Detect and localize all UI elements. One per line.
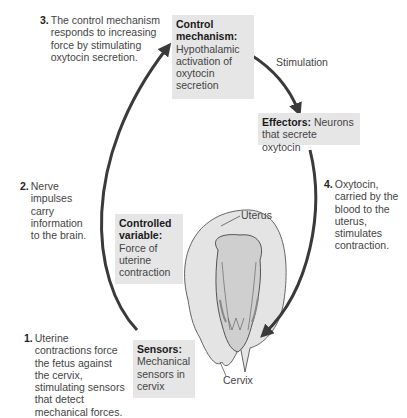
step-3: 3. The control mechanism responds to inc… [40, 14, 168, 63]
step-text: Oxytocin, carried by the blood to the ut… [335, 178, 402, 252]
uterus-illustration [185, 210, 287, 376]
step-text: Uterine contractions force the fetus aga… [35, 332, 128, 418]
effectors-box: Effectors: Neurons that secrete oxytocin [258, 113, 360, 145]
step-4: 4. Oxytocin, carried by the blood to the… [324, 178, 402, 252]
cervix-label: Cervix [223, 374, 253, 386]
box-body: Hypothalamic activation of oxytocin secr… [176, 43, 240, 92]
box-title: Control mechanism: [176, 18, 237, 42]
stimulation-label: Stimulation [276, 56, 328, 68]
uterus-label: Uterus [241, 209, 272, 221]
box-body: Force of uterine contraction [119, 242, 170, 279]
arrow-nerve-impulses [101, 48, 167, 330]
box-title: Controlled variable: [119, 217, 172, 241]
step-text: The control mechanism responds to increa… [51, 14, 168, 63]
step-number: 3. [40, 14, 49, 63]
sensors-box: Sensors: Mechanical sensors in cervix [133, 340, 195, 398]
step-number: 2. [20, 180, 29, 241]
control-mechanism-box: Control mechanism: Hypothalamic activati… [172, 15, 254, 99]
box-body: Mechanical sensors in cervix [137, 355, 190, 392]
step-number: 1. [24, 332, 33, 418]
step-text: Nerve impulses carry information to the … [31, 180, 90, 241]
step-1: 1. Uterine contractions force the fetus … [24, 332, 128, 418]
box-title: Sensors: [137, 343, 182, 355]
step-number: 4. [324, 178, 333, 252]
controlled-variable-box: Controlled variable: Force of uterine co… [115, 214, 183, 284]
box-title: Effectors: [262, 116, 311, 128]
step-2: 2. Nerve impulses carry information to t… [20, 180, 90, 241]
